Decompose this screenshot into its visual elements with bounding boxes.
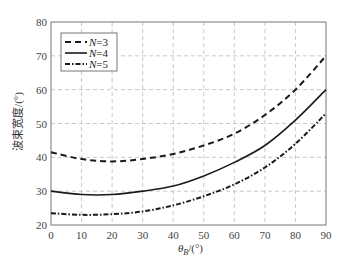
y-tick-label: 50: [36, 118, 48, 130]
x-axis-label: θB/(°): [178, 242, 203, 257]
y-tick-label: 40: [36, 151, 48, 163]
y-axis-label: 波束宽度/(°): [11, 92, 25, 151]
x-tick-label: 70: [259, 229, 271, 241]
y-tick-label: 20: [36, 219, 48, 231]
x-tick-label: 30: [137, 229, 149, 241]
y-tick-label: 80: [36, 16, 48, 28]
line-chart: 0102030405060708090 20304050607080 θB/(°…: [0, 0, 349, 269]
x-tick-label: 40: [168, 229, 180, 241]
x-tick-label: 10: [76, 229, 88, 241]
y-tick-label: 60: [36, 84, 48, 96]
x-tick-label: 90: [321, 229, 333, 241]
x-tick-label: 20: [107, 229, 119, 241]
legend: N=3N=4N=5: [61, 33, 117, 71]
x-tick-label: 0: [48, 229, 54, 241]
x-tick-label: 50: [198, 229, 210, 241]
x-axis-ticks: 0102030405060708090: [48, 229, 332, 241]
y-tick-label: 30: [36, 185, 48, 197]
x-tick-label: 60: [229, 229, 241, 241]
series-line-n-5: [51, 113, 326, 215]
series-line-n-4: [51, 90, 326, 195]
y-tick-label: 70: [36, 50, 48, 62]
x-tick-label: 80: [290, 229, 302, 241]
y-axis-ticks: 20304050607080: [36, 16, 48, 231]
series-line-n-3: [51, 56, 326, 162]
legend-label: N=5: [88, 58, 109, 70]
